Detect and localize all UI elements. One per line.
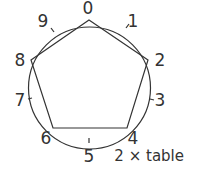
label-7: 7: [15, 90, 26, 110]
label-5: 5: [84, 146, 95, 166]
label-4: 4: [128, 128, 139, 148]
label-0: 0: [83, 0, 94, 18]
tick-marks: [28, 24, 154, 143]
label-9: 9: [38, 11, 49, 31]
label-3: 3: [155, 90, 166, 110]
label-1: 1: [128, 11, 139, 31]
label-2: 2: [155, 50, 166, 70]
caption: 2 × table: [114, 147, 184, 165]
pentagon: [31, 20, 148, 128]
label-8: 8: [15, 50, 26, 70]
times-table-circle-diagram: 0 1 2 3 4 5 6 7 8 9 2 × table: [0, 0, 205, 173]
label-6: 6: [41, 128, 52, 148]
